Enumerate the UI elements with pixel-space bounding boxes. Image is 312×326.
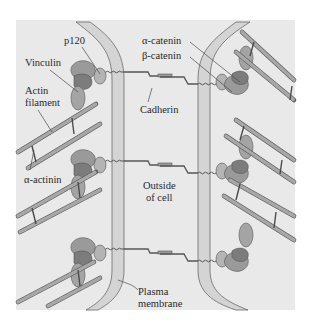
label-vinculin: Vinculin (25, 57, 61, 68)
adherens-junction-diagram: p120 Vinculin Actin filament α-actinin α… (0, 0, 312, 326)
label-plasma-line1: Plasma (138, 286, 168, 297)
label-plasma-line2: membrane (138, 298, 182, 309)
label-alpha-actinin: α-actinin (24, 174, 62, 185)
right-vinculin (239, 223, 253, 247)
label-outside-line1: Outside (143, 180, 176, 191)
left-vinculin (71, 86, 85, 110)
label-beta-catenin: β-catenin (142, 50, 181, 61)
label-alpha-catenin: α-catenin (142, 35, 181, 46)
label-actin-line2: filament (25, 97, 60, 108)
right-alpha-catenin (232, 160, 248, 173)
left-p120 (94, 245, 106, 261)
label-p120: p120 (64, 35, 85, 46)
label-outside-line2: of cell (146, 192, 173, 203)
label-cadherin: Cadherin (140, 104, 179, 115)
diagram-artwork (0, 0, 312, 326)
label-actin-line1: Actin (25, 85, 48, 96)
right-alpha-catenin (232, 248, 248, 261)
left-p120 (94, 68, 106, 84)
